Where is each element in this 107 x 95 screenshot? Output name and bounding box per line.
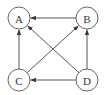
directed-graph: ABCD — [0, 0, 107, 95]
node-label: D — [83, 75, 91, 87]
node-a: A — [8, 7, 30, 29]
node-label: B — [83, 13, 90, 25]
node-c: C — [8, 69, 30, 91]
node-d: D — [76, 69, 98, 91]
edges — [19, 18, 87, 80]
node-b: B — [76, 7, 98, 29]
node-label: C — [15, 75, 22, 87]
node-label: A — [15, 13, 23, 25]
